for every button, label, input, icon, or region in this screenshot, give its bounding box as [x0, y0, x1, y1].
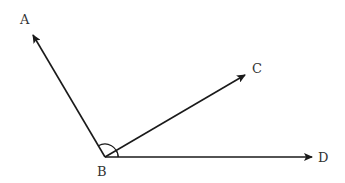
ray-bc [105, 75, 245, 157]
angle-diagram: A B C D [0, 0, 345, 183]
point-label-d: D [318, 150, 328, 165]
point-label-b: B [97, 164, 107, 179]
ray-ba [33, 35, 105, 157]
point-label-a: A [19, 12, 30, 27]
angle-arc-cbd [116, 150, 118, 157]
point-label-c: C [252, 61, 262, 76]
